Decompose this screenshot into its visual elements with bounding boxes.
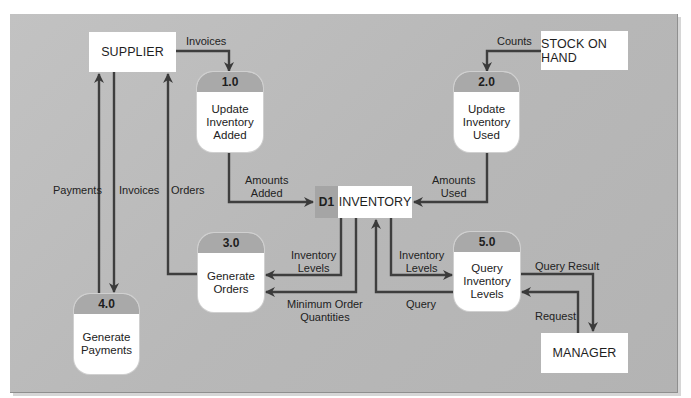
- process-4-id: 4.0: [74, 294, 139, 314]
- process-1: 1.0 Update Inventory Added: [197, 72, 263, 152]
- flow-label-counts: Counts: [497, 35, 532, 48]
- process-2-id: 2.0: [454, 72, 519, 92]
- flow-label-inventory-levels-p5: Inventory Levels: [399, 249, 444, 275]
- process-3: 3.0 Generate Orders: [198, 233, 264, 312]
- process-2: 2.0 Update Inventory Used: [454, 72, 519, 152]
- data-store-inventory: D1 INVENTORY: [315, 186, 412, 218]
- flow-label-invoices-to-p1: Invoices: [186, 35, 226, 48]
- process-4: 4.0 Generate Payments: [74, 294, 139, 374]
- process-1-name: Update Inventory Added: [197, 92, 263, 152]
- flow-label-amounts-added: Amounts Added: [245, 174, 288, 200]
- flow-label-payments: Payments: [53, 184, 102, 197]
- process-4-name: Generate Payments: [74, 314, 139, 374]
- process-2-name: Update Inventory Used: [454, 92, 519, 152]
- entity-manager: MANAGER: [541, 333, 628, 373]
- flow-label-minimum-order-quantities: Minimum Order Quantities: [287, 298, 363, 324]
- flow-label-amounts-used: Amounts Used: [432, 174, 475, 200]
- process-1-id: 1.0: [197, 72, 263, 92]
- flow-label-request: Request: [535, 310, 576, 323]
- flow-label-query-result: Query Result: [535, 260, 599, 273]
- entity-stock-on-hand: STOCK ON HAND: [541, 31, 628, 70]
- process-5-id: 5.0: [454, 232, 520, 252]
- process-3-name: Generate Orders: [198, 253, 264, 312]
- flow-label-inventory-levels-p3: Inventory Levels: [291, 249, 336, 275]
- process-3-id: 3.0: [198, 233, 264, 253]
- data-store-name: INVENTORY: [338, 186, 412, 218]
- entity-supplier: SUPPLIER: [89, 32, 176, 72]
- flow-label-invoices-to-p4: Invoices: [119, 184, 159, 197]
- flow-label-orders: Orders: [171, 184, 205, 197]
- flow-label-query: Query: [406, 298, 436, 311]
- data-store-id: D1: [315, 186, 338, 218]
- process-5-name: Query Inventory Levels: [454, 252, 520, 311]
- process-5: 5.0 Query Inventory Levels: [454, 232, 520, 311]
